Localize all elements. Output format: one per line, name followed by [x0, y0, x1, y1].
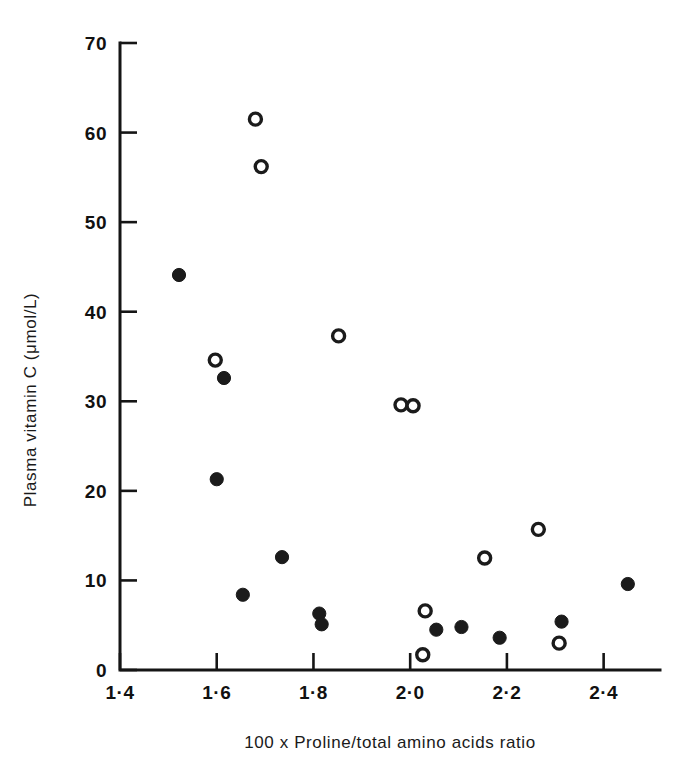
data-point-filled — [455, 620, 468, 633]
data-point-open — [532, 523, 544, 535]
y-tick-label: 60 — [85, 123, 107, 144]
x-tick-label: 1·6 — [202, 682, 231, 703]
y-tick-label: 10 — [85, 570, 107, 591]
data-point-filled — [210, 473, 223, 486]
data-point-open — [419, 605, 431, 617]
data-point-open — [553, 637, 565, 649]
y-tick-label: 30 — [85, 391, 107, 412]
data-point-filled — [315, 618, 328, 631]
data-point-filled — [493, 631, 506, 644]
data-point-open — [407, 400, 419, 412]
y-axis-label: Plasma vitamin C (μmol/L) — [21, 293, 40, 508]
y-tick-label: 40 — [85, 302, 107, 323]
data-point-filled — [621, 577, 634, 590]
data-point-filled — [236, 588, 249, 601]
data-point-filled — [172, 268, 185, 281]
y-tick-label: 0 — [96, 660, 107, 681]
data-point-filled — [555, 615, 568, 628]
x-axis-label: 100 x Proline/total amino acids ratio — [244, 733, 536, 752]
x-tick-label: 2·0 — [396, 682, 425, 703]
x-tick-label: 2·2 — [492, 682, 521, 703]
y-tick-label: 20 — [85, 481, 107, 502]
data-point-open — [417, 649, 429, 661]
scatter-plot-figure: 010203040506070 1·41·61·82·02·22·4 Plasm… — [0, 0, 682, 782]
data-point-open — [255, 161, 267, 173]
x-tick-label: 1·8 — [299, 682, 328, 703]
data-point-open — [479, 552, 491, 564]
y-tick-label: 50 — [85, 212, 107, 233]
y-tick-label: 70 — [85, 33, 107, 54]
x-tick-label: 2·4 — [589, 682, 618, 703]
data-point-open — [333, 330, 345, 342]
x-tick-label: 1·4 — [106, 682, 135, 703]
data-point-filled — [217, 371, 230, 384]
data-point-open — [249, 113, 261, 125]
data-point-open — [395, 399, 407, 411]
data-point-filled — [430, 623, 443, 636]
data-point-filled — [275, 551, 288, 564]
data-point-open — [209, 354, 221, 366]
